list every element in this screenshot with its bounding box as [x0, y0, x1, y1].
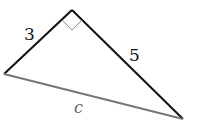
triangle-graphic	[0, 0, 197, 131]
leg-5	[72, 10, 183, 119]
hypotenuse-c	[4, 74, 183, 119]
right-angle-mark	[62, 20, 82, 30]
label-leg-5: 5	[129, 47, 140, 64]
right-triangle-diagram: 3 5 c	[0, 0, 197, 131]
label-leg-3: 3	[24, 26, 35, 43]
leg-3	[4, 10, 72, 74]
label-hypotenuse-c: c	[74, 100, 83, 116]
